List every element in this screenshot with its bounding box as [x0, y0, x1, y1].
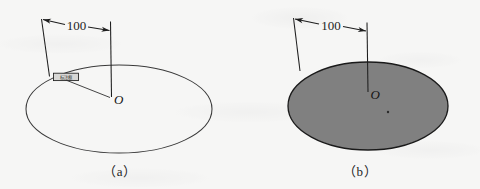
- dimension-line-right-a: [88, 27, 110, 31]
- radius-leader-line-a: [62, 79, 110, 98]
- dimension-line-left-b: [295, 19, 319, 24]
- extension-line-left-b: [294, 18, 301, 71]
- dimension-line-left-a: [43, 20, 65, 25]
- figure-panel-b: 100 O （b）: [240, 0, 480, 189]
- caption-b: （b）: [240, 161, 480, 180]
- dimension-line-right-b: [343, 27, 366, 32]
- figure-panel-a: 100 标注框 O （a）: [0, 0, 240, 189]
- center-label-b: O: [371, 87, 381, 102]
- extension-line-left-a: [42, 19, 50, 77]
- center-label-a: O: [114, 92, 124, 107]
- dimension-value-a: 100: [67, 18, 87, 33]
- extension-line-right-a: [111, 22, 112, 98]
- annotation-tag-a: 标注框: [54, 73, 79, 80]
- annotation-tag-label-a: 标注框: [60, 74, 73, 81]
- figure-sheet: 100 标注框 O （a）: [0, 0, 480, 189]
- dimension-value-b: 100: [321, 18, 341, 33]
- center-dot-b: [387, 111, 389, 113]
- caption-a: （a）: [0, 161, 240, 180]
